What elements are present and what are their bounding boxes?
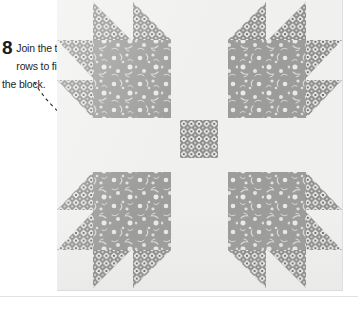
- quilt-block-photo: [57, 0, 342, 291]
- page-canvas: 8 Join the three rows to finish the bloc…: [0, 0, 358, 311]
- paw-top-left: [57, 0, 171, 118]
- center-square: [180, 120, 218, 158]
- page-divider-rule: [0, 296, 358, 297]
- paw-top-right: [228, 0, 342, 118]
- step-number: 8: [2, 39, 12, 57]
- block-edge-bottom: [57, 290, 343, 291]
- block-edge-right: [342, 0, 343, 291]
- bears-paw-block: [57, 0, 342, 290]
- paw-bottom-right: [228, 172, 342, 290]
- paw-bottom-left: [57, 172, 171, 290]
